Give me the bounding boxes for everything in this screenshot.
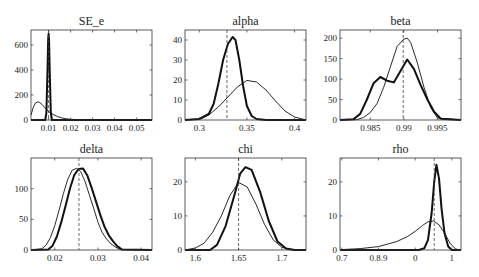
y-tick-label: 0	[333, 245, 338, 255]
y-tick-label: 0	[24, 115, 29, 125]
panel-se-e: SE_e0.010.020.030.040.050200400600	[15, 14, 153, 133]
y-tick-label: 0	[178, 115, 183, 125]
y-tick-label: 20	[173, 75, 183, 85]
x-tick-label: 1.65	[231, 253, 247, 263]
x-tick-label: 0.04	[107, 123, 123, 133]
x-tick-label: 0.03	[90, 253, 106, 263]
x-tick-label: 0.3	[194, 123, 206, 133]
y-tick-label: 400	[15, 65, 29, 75]
panel-title: chi	[238, 142, 253, 156]
y-tick-label: 50	[19, 214, 29, 224]
posterior-density-line	[31, 168, 152, 250]
panel-alpha: alpha0.30.350.4010203040	[173, 14, 306, 133]
axes-frame	[185, 30, 306, 120]
figure-canvas: SE_e0.010.020.030.040.050200400600alpha0…	[0, 0, 479, 277]
y-tick-label: 20	[328, 177, 338, 187]
x-tick-label: 0.35	[239, 123, 255, 133]
x-tick-label: 0.04	[133, 253, 149, 263]
prior-density-line	[340, 38, 461, 120]
x-tick-label: 0.4	[289, 123, 301, 133]
panel-title: SE_e	[79, 14, 104, 28]
x-tick-label: 0.02	[47, 253, 63, 263]
y-tick-label: 10	[173, 95, 183, 105]
posterior-density-line	[340, 165, 461, 250]
panel-title: delta	[80, 142, 104, 156]
y-tick-label: 0	[24, 245, 29, 255]
prior-density-line	[31, 102, 152, 120]
x-tick-label: 1.6	[190, 253, 202, 263]
x-tick-label: 0.05	[129, 123, 145, 133]
y-tick-label: 50	[328, 95, 338, 105]
prior-density-line	[185, 183, 306, 251]
x-tick-label: 1	[450, 253, 455, 263]
y-tick-label: 10	[328, 211, 338, 221]
axes-frame	[31, 158, 152, 250]
y-tick-label: 100	[324, 74, 338, 84]
prior-density-line	[31, 168, 152, 250]
posterior-density-line	[185, 37, 306, 120]
x-tick-label: 0.8.9	[370, 253, 389, 263]
x-tick-label: 1.7	[276, 253, 288, 263]
panel-beta: beta0.9850.990.995050100150200	[324, 14, 462, 133]
panel-delta: delta0.020.030.04050100	[15, 142, 153, 263]
y-tick-label: 100	[15, 184, 29, 194]
y-tick-label: 0	[333, 115, 338, 125]
x-tick-label: 0	[413, 253, 418, 263]
panel-chi: chi1.61.651.701020	[173, 142, 306, 263]
panel-title: alpha	[233, 14, 260, 28]
axes-frame	[340, 158, 461, 250]
x-tick-label: 0.99	[396, 123, 412, 133]
posterior-density-line	[340, 60, 461, 121]
x-tick-label: 0.985	[360, 123, 381, 133]
y-tick-label: 40	[173, 35, 183, 45]
posterior-density-line	[185, 167, 306, 250]
y-tick-label: 600	[15, 40, 29, 50]
y-tick-label: 200	[15, 90, 29, 100]
x-tick-label: 0.02	[63, 123, 79, 133]
x-tick-label: 0.01	[41, 123, 57, 133]
x-tick-label: 0.7	[336, 253, 348, 263]
panel-title: rho	[393, 142, 409, 156]
y-tick-label: 200	[324, 33, 338, 43]
axes-frame	[185, 158, 306, 250]
y-tick-label: 20	[173, 177, 183, 187]
y-tick-label: 10	[173, 211, 183, 221]
x-tick-label: 0.995	[427, 123, 448, 133]
x-tick-label: 0.03	[85, 123, 101, 133]
posterior-density-line	[31, 34, 152, 120]
axes-frame	[340, 30, 461, 120]
y-tick-label: 0	[178, 245, 183, 255]
y-tick-label: 30	[173, 55, 183, 65]
panel-title: beta	[391, 14, 412, 28]
panel-rho: rho0.70.8.90101020	[328, 142, 461, 263]
y-tick-label: 150	[324, 54, 338, 64]
